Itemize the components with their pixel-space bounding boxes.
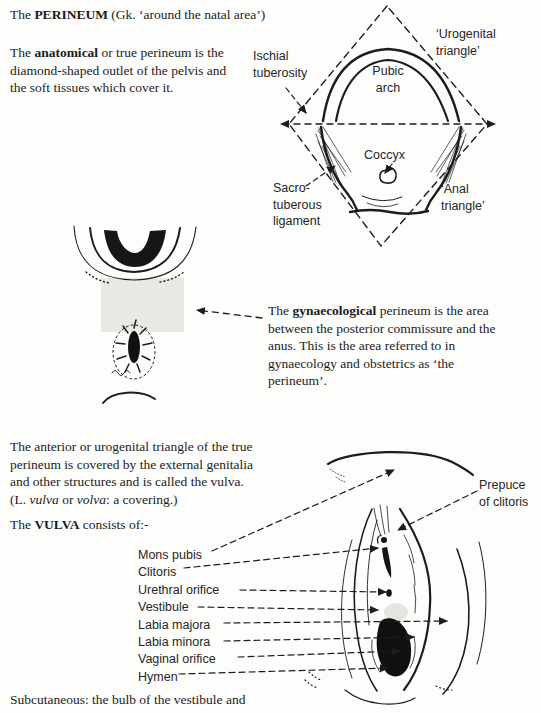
label-coccyx: Coccyx xyxy=(364,147,405,164)
label-anal-triangle: ‘Anal triangle’ xyxy=(441,181,485,214)
vulva-intro-prefix: The xyxy=(10,517,34,532)
label-mons-pubis: Mons pubis xyxy=(138,547,202,563)
label-vestibule: Vestibule xyxy=(138,599,189,615)
anatomical-prefix: The xyxy=(10,45,34,60)
label-labia-majora: Labia majora xyxy=(138,617,210,633)
textbook-page: The PERINEUM (Gk. ‘around the natal area… xyxy=(0,0,541,713)
vulva-intro-line: The VULVA consists of:- xyxy=(10,516,260,534)
uro-italic-volva: volva xyxy=(77,492,106,507)
label-ischial-tuberosity: Ischial tuberosity xyxy=(253,48,307,81)
uro-italic-vulva: vulva xyxy=(30,492,59,507)
gynaecological-perineum-paragraph: The gynaecological perineum is the area … xyxy=(268,302,510,390)
urogenital-triangle-paragraph: The anterior or urogenital triangle of t… xyxy=(10,438,262,508)
label-prepuce-of-clitoris: Prepuce of clitoris xyxy=(479,477,528,510)
label-sacrotuberous-ligament: Sacro- tuberous ligament xyxy=(273,180,322,230)
gyn-prefix: The xyxy=(268,303,292,318)
title-keyword: PERINEUM xyxy=(34,7,108,22)
gyn-keyword: gynaecological xyxy=(292,303,376,318)
label-vaginal-orifice: Vaginal orifice xyxy=(138,651,216,667)
label-clitoris: Clitoris xyxy=(138,564,176,580)
uro-mid: or xyxy=(59,492,77,507)
vulva-intro-suffix: consists of:- xyxy=(79,517,148,532)
page-title: The PERINEUM (Gk. ‘around the natal area… xyxy=(10,6,430,24)
label-pubic-arch: Pubic arch xyxy=(364,63,412,96)
footer-line: Subcutaneous: the bulb of the vestibule … xyxy=(10,691,410,709)
title-suffix: (Gk. ‘around the natal area’) xyxy=(108,7,265,22)
label-urethral-orifice: Urethral orifice xyxy=(138,582,219,598)
uro-tail: : a covering.) xyxy=(106,492,178,507)
label-labia-minora: Labia minora xyxy=(138,634,210,650)
title-prefix: The xyxy=(10,7,34,22)
anatomical-keyword: anatomical xyxy=(34,45,98,60)
anatomical-perineum-paragraph: The anatomical or true perineum is the d… xyxy=(10,44,228,97)
vulva-intro-keyword: VULVA xyxy=(34,517,79,532)
gynaecological-perineum-drawing xyxy=(74,226,262,403)
label-urogenital-triangle: ‘Urogenital triangle’ xyxy=(436,26,496,59)
label-hymen: Hymen xyxy=(138,669,178,685)
